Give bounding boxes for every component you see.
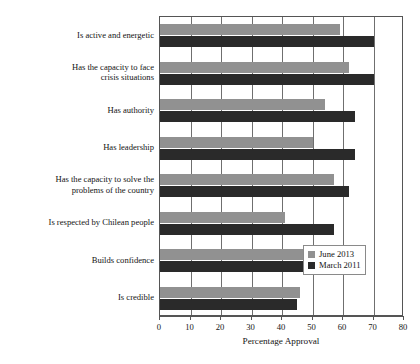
bar [160, 186, 349, 197]
bar [160, 212, 285, 223]
bar [160, 224, 334, 235]
category-label-line: Has the capacity to solve the [0, 174, 154, 185]
legend-swatch-icon [308, 251, 315, 258]
category-label-line: Is active and energetic [0, 30, 154, 41]
category-label-line: Is credible [0, 292, 154, 303]
x-tick-60 [342, 316, 343, 320]
bar [160, 299, 297, 310]
x-tick-label-70: 70 [361, 322, 385, 332]
bar-group [160, 205, 402, 243]
bar-group [160, 280, 402, 318]
x-tick-label-80: 80 [391, 322, 415, 332]
category-label-line: Builds confidence [0, 255, 154, 266]
x-tick-50 [312, 316, 313, 320]
category-label-line: problems of the country [0, 185, 154, 196]
bar [160, 249, 303, 260]
bar [160, 149, 355, 160]
category-label: Has the capacity to facecrisis situation… [0, 62, 154, 83]
x-tick-10 [190, 316, 191, 320]
bar [160, 62, 349, 73]
category-label-line: crisis situations [0, 72, 154, 83]
category-label: Is respected by Chilean people [0, 217, 154, 228]
x-tick-label-10: 10 [178, 322, 202, 332]
legend-item: March 2011 [308, 260, 360, 271]
x-tick-0 [159, 316, 160, 320]
category-label-line: Has leadership [0, 142, 154, 153]
x-tick-80 [403, 316, 404, 320]
category-axis-labels: Is active and energeticHas the capacity … [0, 16, 154, 316]
legend-label: March 2011 [319, 260, 360, 271]
category-label-line: Has authority [0, 105, 154, 116]
x-tick-label-50: 50 [300, 322, 324, 332]
bar [160, 287, 300, 298]
bar-group [160, 55, 402, 93]
bar [160, 111, 355, 122]
bar [160, 174, 334, 185]
x-tick-20 [220, 316, 221, 320]
category-label: Has authority [0, 105, 154, 116]
x-tick-label-40: 40 [269, 322, 293, 332]
category-label: Is active and energetic [0, 30, 154, 41]
bar [160, 261, 303, 272]
x-tick-40 [281, 316, 282, 320]
bar-group [160, 17, 402, 55]
category-label: Is credible [0, 292, 154, 303]
x-tick-label-20: 20 [208, 322, 232, 332]
bar [160, 137, 313, 148]
legend: June 2013March 2011 [303, 245, 366, 275]
category-label: Builds confidence [0, 255, 154, 266]
x-tick-label-30: 30 [239, 322, 263, 332]
bar-group [160, 130, 402, 168]
bar [160, 99, 325, 110]
bar [160, 74, 374, 85]
legend-item: June 2013 [308, 249, 360, 260]
bar-group [160, 167, 402, 205]
bar-chart: Is active and energeticHas the capacity … [0, 0, 420, 364]
bar [160, 24, 340, 35]
bar-group [160, 92, 402, 130]
x-axis-title: Percentage Approval [159, 336, 403, 346]
x-tick-70 [373, 316, 374, 320]
x-tick-label-0: 0 [147, 322, 171, 332]
legend-swatch-icon [308, 262, 315, 269]
category-label: Has the capacity to solve theproblems of… [0, 174, 154, 195]
bar [160, 36, 374, 47]
x-tick-30 [251, 316, 252, 320]
category-label-line: Has the capacity to face [0, 62, 154, 73]
x-tick-label-60: 60 [330, 322, 354, 332]
category-label: Has leadership [0, 142, 154, 153]
category-label-line: Is respected by Chilean people [0, 217, 154, 228]
legend-label: June 2013 [319, 249, 354, 260]
